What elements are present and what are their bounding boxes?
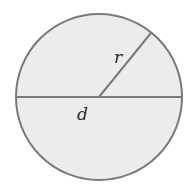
diameter-label: d <box>77 104 88 124</box>
radius-label: r <box>114 47 123 67</box>
circle-diagram: r d <box>0 0 186 185</box>
